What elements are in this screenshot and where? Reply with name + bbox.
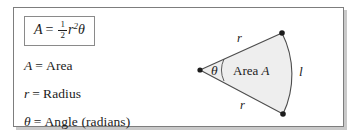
fraction-denominator: 2 [58, 31, 67, 40]
sector-area-formula: A = 1 2 r2θ [34, 20, 85, 41]
formula-fraction: 1 2 [58, 20, 67, 41]
formula-lhs: A [34, 23, 43, 37]
formula-equals: = [46, 23, 54, 37]
legend-symbol-theta: θ [24, 114, 31, 129]
legend-meaning-area: Area [46, 58, 73, 73]
legend-column: A = 1 2 r2θ A=Area r=Radius θ=Angle (rad… [24, 16, 184, 130]
formula-angle-symbol: θ [78, 23, 85, 37]
legend-equals-theta: = [34, 114, 42, 129]
legend-symbol-r: r [24, 86, 29, 101]
legend-equals-a: = [35, 58, 43, 73]
sector-area-figure: A = 1 2 r2θ A=Area r=Radius θ=Angle (rad… [0, 0, 359, 136]
legend-item-area: A=Area [24, 58, 184, 74]
legend-item-angle: θ=Angle (radians) [24, 114, 184, 130]
legend-meaning-radius: Radius [43, 86, 81, 101]
fraction-numerator: 1 [58, 20, 67, 29]
formula-box: A = 1 2 r2θ [24, 16, 95, 46]
legend-item-radius: r=Radius [24, 86, 184, 102]
legend-symbol-a: A [24, 58, 32, 73]
legend-meaning-angle: Angle (radians) [44, 114, 130, 129]
legend-equals-r: = [32, 86, 40, 101]
